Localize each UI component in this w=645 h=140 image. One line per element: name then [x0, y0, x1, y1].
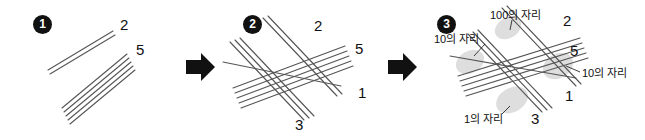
step-1-digit-label-2: 2	[120, 16, 128, 33]
place-label-tens-right: 10의 자리	[582, 64, 627, 80]
step-badge-2: 2	[243, 15, 262, 34]
step-2-digit-label-5: 5	[355, 40, 363, 57]
step-badge-1: 1	[33, 15, 52, 34]
arrow-step-2-to-3-icon	[384, 0, 424, 140]
step-3-digit-label-1: 1	[565, 87, 573, 104]
step-2-digit-label-2: 2	[314, 17, 322, 34]
place-label-tens-left: 10의 자리	[434, 30, 479, 46]
step-3-panel: 3	[430, 0, 645, 140]
step-2-panel: 2	[215, 0, 380, 140]
place-label-hundreds: 100의 자리	[490, 6, 541, 22]
place-label-ones: 1의 자리	[464, 110, 503, 126]
intersection-shading	[452, 12, 578, 119]
step-1-digit-label-5: 5	[136, 41, 144, 58]
lattice-multiplication-figure: 1 2 5	[0, 0, 645, 140]
step-1-lines	[0, 0, 180, 140]
step-3-digit-label-3: 3	[531, 110, 539, 127]
line-group-5	[62, 54, 135, 124]
step-3-digit-label-5: 5	[570, 42, 578, 59]
step-3-digit-label-2: 2	[563, 12, 571, 29]
step-1-panel: 1 2 5	[0, 0, 180, 140]
arrow-step-2-to-3-wrap	[384, 0, 424, 140]
line-group-5	[233, 46, 353, 108]
line-group-2	[48, 31, 115, 74]
step-2-digit-label-1: 1	[358, 84, 366, 101]
step-2-digit-label-3: 3	[295, 116, 303, 133]
